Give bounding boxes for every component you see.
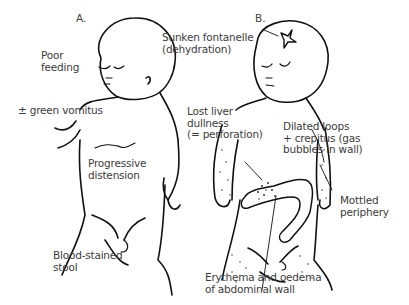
panel-label-b: B.	[255, 12, 266, 24]
label-lost-liver-dullness: Lost liver dullness (= perforation)	[187, 106, 263, 141]
label-progressive-distension: Progressive distension	[88, 158, 146, 181]
erythema-patch	[257, 182, 276, 200]
label-poor-feeding: Poor feeding	[41, 50, 79, 73]
label-mottled-periphery: Mottled periphery	[340, 195, 389, 218]
label-erythema-oedema: Erythema and oedema of abdominal wall	[205, 272, 321, 295]
panel-label-a: A.	[76, 12, 86, 24]
label-green-vomitus: ± green vomitus	[18, 105, 103, 117]
label-blood-stained-stool: Blood-stained stool	[53, 250, 123, 273]
label-dilated-loops: Dilated loops + crepitus (gas bubbles in…	[283, 121, 363, 156]
label-sunken-fontanelle: Sunken fontanelle (dehydration)	[162, 32, 253, 55]
